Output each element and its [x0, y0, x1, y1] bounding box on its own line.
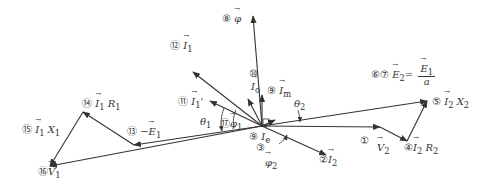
label-phi1: ⑰φ→1 — [220, 119, 242, 131]
label-I1R1: ⑭ I→1 R1 — [82, 99, 120, 111]
label-theta1: θ1 — [200, 117, 211, 129]
label-I0: I→o — [251, 82, 260, 94]
label-negE1: ⑬ −E→1 — [127, 127, 161, 139]
label-I2R2: ④I→2 R2 — [404, 143, 438, 155]
label-Im: ⑨ I→m — [267, 86, 291, 98]
vector-E2 — [262, 101, 427, 126]
label-I2: ②I→2 — [319, 155, 337, 167]
label-theta2: θ2 — [294, 99, 305, 111]
label-phi2: φ→2 — [265, 158, 277, 170]
label-V1: ⑯V→1 — [38, 167, 61, 179]
vector-I1X1 — [50, 112, 83, 166]
vector-I2R2 — [380, 127, 407, 141]
label-I1: ⑫ I→1 — [170, 41, 192, 53]
label-1: ① — [360, 136, 369, 146]
label-V2: V→2 — [377, 143, 390, 155]
label-I1prime: ⑪ I→1' — [178, 97, 203, 109]
vector-V2 — [262, 126, 380, 127]
label-I1X1: ⑮ I→1 X1 — [22, 125, 60, 137]
label-I2X2: ⑤ I→2 X2 — [432, 97, 469, 109]
vector-I2 — [262, 126, 326, 155]
label-3: ③ — [256, 143, 265, 153]
label-E2: ⑥⑦ E→2= E→1 a — [371, 64, 435, 87]
phasor-diagram — [0, 0, 484, 186]
label-phi: ⑧ φ→ — [222, 14, 241, 24]
